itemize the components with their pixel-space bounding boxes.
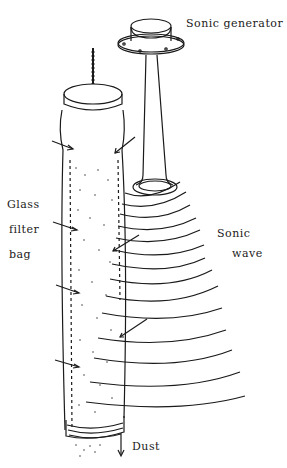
sonic-wave-label-line1: Sonic xyxy=(217,228,250,239)
dust-label: Dust xyxy=(132,441,160,452)
sonic-waves xyxy=(86,182,245,407)
dust-arrow-icon xyxy=(118,433,124,456)
glass-filter-bag-label-line2: filter xyxy=(9,224,39,235)
sonic-horn xyxy=(133,55,177,195)
sonic-generator xyxy=(118,19,184,54)
dust-particles xyxy=(75,167,112,456)
glass-filter-bag-label-line1: Glass xyxy=(7,199,40,210)
sonic-generator-label: Sonic generator xyxy=(186,18,283,29)
sonic-wave-label-line2: wave xyxy=(232,248,263,259)
glass-filter-bag xyxy=(60,48,125,438)
glass-filter-bag-label-line3: bag xyxy=(9,249,31,260)
airflow-arrows xyxy=(52,137,147,368)
